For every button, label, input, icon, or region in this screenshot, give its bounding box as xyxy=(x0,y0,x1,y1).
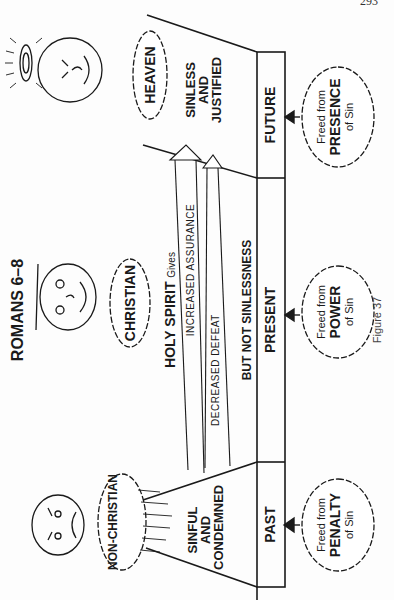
assurance-arrow-line-b xyxy=(196,160,204,473)
increased-assurance-label: INCREASED ASSURANCE xyxy=(186,180,196,360)
figure-title: ROMANS 6–8 xyxy=(10,210,26,410)
justified-line: JUSTIFIED xyxy=(210,50,223,130)
romans-diagram: ROMANS 6–8 NON-CHRISTIAN CHRISTIAN HEAVE… xyxy=(0,0,394,600)
of-sin: of Sin xyxy=(343,267,356,357)
but-not-sinlessness-label: BUT NOT SINLESSNESS xyxy=(241,220,253,400)
penalty-word: PENALTY xyxy=(328,480,343,570)
of-sin: of Sin xyxy=(343,67,356,167)
holy-spirit-label: HOLY SPIRIT xyxy=(162,282,178,368)
timeline-future: FUTURE xyxy=(263,52,277,178)
of-sin: of Sin xyxy=(343,480,356,570)
sinful-condemned-text: SINFUL AND CONDEMNED xyxy=(186,490,225,570)
freed-power-text: Freed from POWER of Sin xyxy=(315,267,356,357)
figure-caption: Figure 37 xyxy=(372,270,383,370)
christian-label: CHRISTIAN xyxy=(123,259,137,347)
sinless-justified-text: SINLESS AND JUSTIFIED xyxy=(184,50,223,130)
power-word: POWER xyxy=(328,267,343,357)
future-slope-line xyxy=(143,145,257,178)
freed-penalty-text: Freed from PENALTY of Sin xyxy=(315,480,356,570)
condemned-line: CONDEMNED xyxy=(212,490,225,570)
freed-presence-text: Freed from PRESENCE of Sin xyxy=(315,67,356,167)
presence-word: PRESENCE xyxy=(328,67,343,167)
timeline-present: PRESENT xyxy=(263,178,277,462)
heaven-label: HEAVEN xyxy=(143,31,157,119)
non-christian-label: NON-CHRISTIAN xyxy=(106,474,120,570)
gives-label: Gives xyxy=(166,252,177,278)
holy-spirit-gives: HOLY SPIRIT Gives xyxy=(163,220,177,400)
book-page: 293 xyxy=(0,0,394,600)
decreased-defeat-label: DECREASED DEFEAT xyxy=(211,280,221,460)
timeline-past: PAST xyxy=(263,462,277,587)
